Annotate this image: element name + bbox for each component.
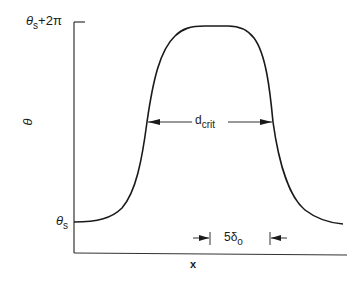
x-axis-label: x [190,259,196,270]
y-top-label-base: θ [26,13,33,28]
y-bottom-label-sub: s [63,220,68,231]
dcrit-base: d [195,113,202,127]
scale-label: 5δo [224,231,243,243]
dcrit-left-arrowhead [148,119,160,125]
scale-left-arrowhead [199,235,209,241]
y-axis-label: θ [20,118,35,125]
y-bottom-tick-label: θs [56,214,68,227]
y-top-tick-label: θs+2π [26,14,62,27]
y-bottom-label-base: θ [56,213,63,228]
dcrit-label: dcrit [195,114,215,126]
diagram-canvas [0,0,359,281]
dcrit-right-arrowhead [260,119,272,125]
scale-sub: o [237,236,243,247]
scale-right-arrowhead [271,235,281,241]
y-top-label-sub: s [33,20,38,31]
y-top-label-suffix: +2π [38,13,62,28]
scale-base: 5δ [224,230,237,244]
dcrit-sub: crit [202,119,215,130]
x-axis [74,253,347,255]
